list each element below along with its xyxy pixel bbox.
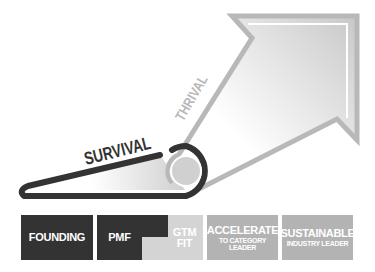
pulley-circle <box>171 156 201 186</box>
stage-accelerate-sub: TO CATEGORY LEADER <box>207 237 278 251</box>
stage-accelerate-label: ACCELERATE <box>207 225 278 236</box>
stage-sustainable-sub: INDUSTRY LEADER <box>287 240 349 247</box>
stage-founding: FOUNDING <box>21 215 93 260</box>
stage-gtm-fit-label: GTM <box>173 227 197 238</box>
stage-sustainable-label: SUSTAINABLE <box>280 228 354 239</box>
stage-pmf: PMF <box>97 215 168 260</box>
stage-sustainable: SUSTAINABLE INDUSTRY LEADER <box>282 215 353 260</box>
stage-accelerate: ACCELERATE TO CATEGORY LEADER <box>207 215 278 260</box>
stage-pmf-label: PMF <box>108 232 130 243</box>
stage-gtm-fit-sub: FIT <box>177 238 193 249</box>
stage-founding-label: FOUNDING <box>29 232 85 243</box>
